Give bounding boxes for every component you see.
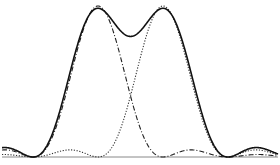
right-pattern-curve <box>2 6 278 157</box>
left-pattern-curve <box>2 6 278 157</box>
sum-intensity-curve <box>2 8 278 157</box>
diffraction-diagram <box>0 0 280 165</box>
